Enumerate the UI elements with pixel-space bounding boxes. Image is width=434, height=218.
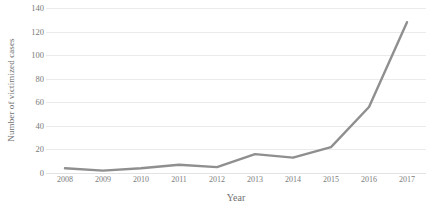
x-axis-tick-labels: 2008200920102011201220132014201520162017: [46, 175, 426, 189]
x-axis-tick-label: 2017: [399, 175, 415, 184]
x-axis-tick-label: 2013: [247, 175, 263, 184]
x-axis-tick-label: 2014: [285, 175, 301, 184]
y-axis-title: Number of victimized cases: [0, 0, 22, 180]
gridline: [46, 173, 426, 174]
y-axis-tick-label: 20: [36, 144, 45, 154]
x-axis-tick-label: 2010: [133, 175, 149, 184]
y-axis-tick-labels: 020406080100120140: [20, 8, 46, 173]
y-axis-title-text: Number of victimized cases: [6, 38, 16, 141]
y-axis-tick-label: 40: [36, 121, 45, 131]
y-axis-tick-label: 120: [31, 27, 44, 37]
line-chart: Number of victimized cases 0204060801001…: [0, 0, 434, 218]
x-axis-tick-label: 2016: [361, 175, 377, 184]
x-axis-tick-label: 2015: [323, 175, 339, 184]
x-axis-tick-label: 2011: [171, 175, 187, 184]
y-axis-tick-label: 100: [31, 50, 44, 60]
y-axis-tick-label: 140: [31, 3, 44, 13]
x-axis-title: Year: [46, 192, 426, 203]
y-axis-tick-label: 0: [40, 168, 44, 178]
y-axis-tick-label: 80: [36, 74, 45, 84]
x-axis-tick-label: 2012: [209, 175, 225, 184]
series-line: [46, 8, 426, 173]
x-axis-tick-label: 2008: [57, 175, 73, 184]
plot-area: [46, 8, 426, 173]
series-polyline: [65, 22, 407, 171]
y-axis-tick-label: 60: [36, 97, 45, 107]
x-axis-tick-label: 2009: [95, 175, 111, 184]
